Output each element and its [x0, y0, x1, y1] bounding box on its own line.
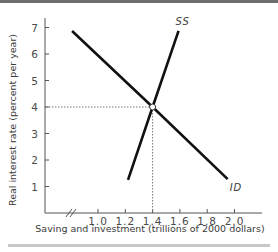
x-axis-label: Saving and investment (trillions of 2000…: [35, 223, 264, 234]
y-axis-label: Real interest rate (percent per year): [7, 34, 18, 206]
y-tick-label: 5: [31, 75, 38, 87]
ss-label: SS: [176, 16, 190, 27]
equilibrium-point: [150, 104, 156, 110]
curves: SSID: [72, 16, 242, 193]
y-tick-label: 6: [31, 48, 38, 60]
y-tick-label: 4: [31, 101, 38, 113]
equilibrium-guides: [46, 107, 153, 212]
id-label: ID: [230, 182, 243, 193]
y-tick-label: 7: [31, 22, 38, 34]
bottom-border: [8, 244, 270, 247]
y-tick-label: 3: [31, 128, 38, 140]
chart: 1234567 1.01.21.41.61.82.0 SSID Real int…: [0, 0, 278, 252]
y-tick-label: 2: [31, 154, 38, 166]
y-tick-label: 1: [31, 181, 38, 193]
